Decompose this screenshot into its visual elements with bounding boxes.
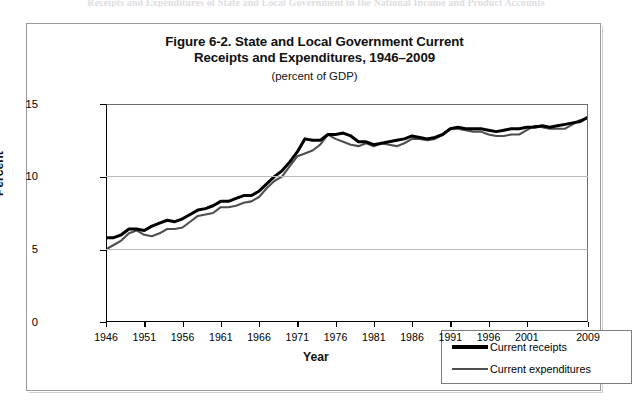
- figure-title-block: Figure 6-2. State and Local Government C…: [27, 34, 602, 85]
- ytick-label-0: 0: [0, 317, 38, 328]
- xtick-label-2009: 2009: [566, 331, 610, 343]
- xtick-mark-1966: [259, 322, 260, 327]
- figure-title-line-1: Figure 6-2. State and Local Government C…: [27, 34, 602, 50]
- legend-item-current-expenditures: Current expenditures: [452, 362, 591, 376]
- xtick-mark-1951: [144, 322, 145, 327]
- figure-title-line-2: Receipts and Expenditures, 1946–2009: [27, 50, 602, 66]
- xtick-mark-2001: [527, 322, 528, 327]
- xtick-mark-1986: [412, 322, 413, 327]
- legend-label-expenditures: Current expenditures: [490, 363, 591, 375]
- xtick-mark-1971: [297, 322, 298, 327]
- gridline-10: [106, 176, 588, 177]
- x-axis-label: Year: [0, 350, 632, 364]
- xtick-mark-1961: [221, 322, 222, 327]
- legend-swatch-receipts: [452, 345, 488, 348]
- xtick-mark-2009: [588, 322, 589, 327]
- gridline-5: [106, 249, 588, 250]
- plot-area: Current receipts Current expenditures: [106, 104, 588, 322]
- xtick-mark-1976: [336, 322, 337, 327]
- figure-subtitle: (percent of GDP): [27, 66, 602, 85]
- legend-swatch-expenditures: [452, 368, 488, 370]
- plot-frame: [106, 104, 588, 322]
- xtick-mark-1946: [106, 322, 107, 327]
- xtick-mark-1996: [489, 322, 490, 327]
- ytick-label-5: 5: [0, 244, 38, 255]
- page-running-head: Receipts and Expenditures of State and L…: [0, 0, 632, 7]
- xtick-mark-1981: [374, 322, 375, 327]
- xtick-label-2001: 2001: [505, 331, 549, 343]
- ytick-label-15: 15: [0, 99, 38, 110]
- xtick-mark-1956: [183, 322, 184, 327]
- y-axis-label: Percent: [0, 151, 6, 196]
- xtick-mark-1991: [450, 322, 451, 327]
